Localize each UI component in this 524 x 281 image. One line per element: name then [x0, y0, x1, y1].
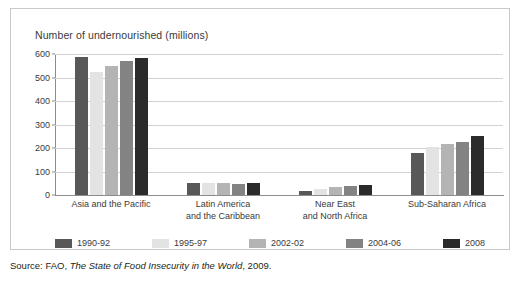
bar: [456, 142, 469, 195]
legend-item[interactable]: 2008: [443, 238, 485, 248]
y-axis-tick-label: 400: [35, 96, 50, 106]
legend-swatch: [55, 239, 72, 248]
legend-label: 1990-92: [77, 238, 110, 248]
category-label-line: and the Caribbean: [167, 211, 279, 223]
figure-root: Number of undernourished (millions) 0100…: [0, 0, 524, 281]
bar: [299, 191, 312, 195]
legend-label: 1995-97: [174, 238, 207, 248]
bar-group: [409, 54, 486, 195]
y-axis-tick-label: 500: [35, 73, 50, 83]
legend-item[interactable]: 2002-02: [249, 238, 304, 248]
x-axis-line: [55, 195, 504, 196]
chart-title: Number of undernourished (millions): [35, 29, 208, 41]
legend-swatch: [249, 239, 266, 248]
category-label-line: Latin America: [167, 199, 279, 211]
category-label: Latin Americaand the Caribbean: [167, 199, 279, 222]
category-label: Sub-Saharan Africa: [391, 199, 503, 211]
bar: [471, 136, 484, 195]
bar: [441, 144, 454, 195]
bar: [75, 57, 88, 195]
legend-label: 2004-06: [368, 238, 401, 248]
source-suffix: , 2009.: [242, 260, 271, 271]
bar: [187, 183, 200, 195]
category-label-line: and North Africa: [279, 211, 391, 223]
y-axis-tick-label: 0: [45, 190, 50, 200]
bar: [314, 189, 327, 195]
bar-group: [297, 54, 374, 195]
bar-group: [73, 54, 150, 195]
legend-item[interactable]: 2004-06: [346, 238, 401, 248]
bar: [120, 61, 133, 195]
chart-panel: Number of undernourished (millions) 0100…: [10, 8, 510, 250]
legend-swatch: [346, 239, 363, 248]
category-label-line: Near East: [279, 199, 391, 211]
legend-label: 2008: [465, 238, 485, 248]
legend-swatch: [152, 239, 169, 248]
y-axis-tick-label: 100: [35, 167, 50, 177]
legend-swatch: [443, 239, 460, 248]
y-axis-tick-label: 600: [35, 49, 50, 59]
bar: [411, 153, 424, 195]
y-axis-tick-label: 200: [35, 143, 50, 153]
bar: [135, 58, 148, 195]
category-label-line: Sub-Saharan Africa: [391, 199, 503, 211]
bar-group: [185, 54, 262, 195]
bar: [105, 66, 118, 195]
bar: [344, 186, 357, 195]
source-title: The State of Food Insecurity in the Worl…: [70, 260, 243, 271]
bar: [247, 183, 260, 195]
legend-item[interactable]: 1990-92: [55, 238, 110, 248]
legend-item[interactable]: 1995-97: [152, 238, 207, 248]
legend-label: 2002-02: [271, 238, 304, 248]
y-axis-tick-label: 300: [35, 120, 50, 130]
bar: [90, 72, 103, 195]
plot-area: 0100200300400500600: [55, 54, 503, 195]
bar: [232, 184, 245, 195]
source-note: Source: FAO, The State of Food Insecurit…: [10, 260, 271, 271]
bar: [359, 185, 372, 195]
bar: [217, 183, 230, 195]
category-label: Asia and the Pacific: [55, 199, 167, 211]
bar: [202, 183, 215, 195]
bar: [426, 147, 439, 195]
source-prefix: Source: FAO,: [10, 260, 70, 271]
category-label: Near Eastand North Africa: [279, 199, 391, 222]
category-label-line: Asia and the Pacific: [55, 199, 167, 211]
bar-groups: [55, 54, 503, 195]
chart-legend: 1990-921995-972002-022004-062008: [55, 237, 507, 249]
bar: [329, 187, 342, 195]
